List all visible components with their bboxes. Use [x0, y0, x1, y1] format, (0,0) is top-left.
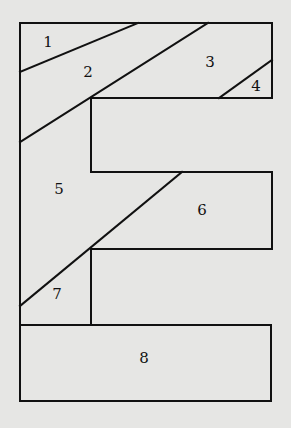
piece-label-2: 2: [83, 63, 93, 81]
piece-label-1: 1: [43, 33, 53, 51]
piece-label-8: 8: [139, 349, 149, 367]
piece-label-5: 5: [54, 180, 64, 198]
cut-line-1-2: [20, 23, 138, 72]
piece-label-4: 4: [251, 77, 261, 95]
piece-label-6: 6: [197, 201, 207, 219]
piece-label-3: 3: [205, 53, 215, 71]
e-dissection-diagram: 1 2 3 4 5 6 7 8: [0, 0, 291, 428]
piece-label-7: 7: [52, 285, 62, 303]
cut-line-5-6-7: [20, 172, 182, 306]
cut-line-3-4: [219, 60, 272, 98]
e-outline: [20, 23, 272, 401]
